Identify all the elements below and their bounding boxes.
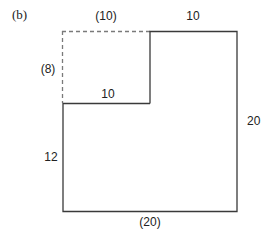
- l-shape-diagram: (b) (10) 10 (8) 10 20 12 (20): [0, 0, 265, 233]
- label-top-right: 10: [186, 9, 200, 23]
- panel-label: (b): [12, 7, 27, 22]
- label-top-left-dashed: (10): [95, 9, 116, 23]
- label-bottom: (20): [139, 215, 160, 229]
- label-inner-horizontal: 10: [101, 87, 115, 101]
- label-left-dashed: (8): [41, 62, 56, 76]
- label-left-lower: 12: [44, 150, 58, 164]
- label-right: 20: [247, 114, 261, 128]
- l-shape-outline: [63, 32, 237, 212]
